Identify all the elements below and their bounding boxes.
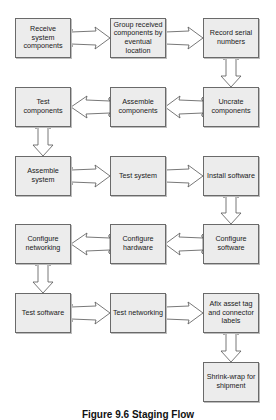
arrow-down-icon xyxy=(33,127,53,156)
arrow-down-icon xyxy=(221,333,241,362)
arrow-down-icon xyxy=(221,58,241,87)
figure-caption: Figure 9.6 Staging Flow xyxy=(0,409,276,420)
step-afix-asset-tag: Afix asset tag and connector labels xyxy=(203,293,259,333)
step-uncrate-components: Uncrate components xyxy=(203,87,259,127)
arrow-right-icon xyxy=(71,27,110,49)
arrow-right-icon xyxy=(165,27,203,49)
step-test-software: Test software xyxy=(15,293,71,333)
step-install-software: Install software xyxy=(203,156,259,196)
arrow-right-icon xyxy=(165,165,203,187)
arrow-right-icon xyxy=(71,302,110,324)
arrow-down-icon xyxy=(33,264,53,293)
arrow-left-icon xyxy=(71,233,110,255)
step-test-networking: Test networking xyxy=(110,293,166,333)
step-receive-system-components: Receive system components xyxy=(15,18,71,58)
step-test-components: Test components xyxy=(15,87,71,127)
arrow-left-icon xyxy=(71,96,110,118)
arrow-right-icon xyxy=(165,302,203,324)
arrow-down-icon xyxy=(221,196,241,224)
step-configure-software: Configure software xyxy=(203,224,259,264)
step-record-serial-numbers: Record serial numbers xyxy=(203,18,259,58)
step-assemble-system: Assemble system xyxy=(15,156,71,196)
step-configure-networking: Configure networking xyxy=(15,224,71,264)
arrow-right-icon xyxy=(71,165,110,187)
step-test-system: Test system xyxy=(110,156,166,196)
arrow-left-icon xyxy=(165,233,203,255)
step-configure-hardware: Configure hardware xyxy=(110,224,166,264)
arrow-left-icon xyxy=(165,96,203,118)
step-group-received-components: Group received components by eventual lo… xyxy=(110,18,166,58)
step-shrink-wrap: Shrink-wrap for shipment xyxy=(203,362,259,402)
step-assemble-components: Assemble components xyxy=(110,87,166,127)
